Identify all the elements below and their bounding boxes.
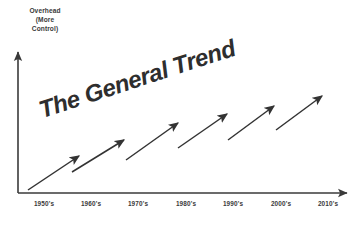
x-tick-label-1950s: 1950's bbox=[34, 200, 54, 207]
trend-arrow-4 bbox=[178, 114, 227, 148]
y-axis-label: Overhead (More Control) bbox=[14, 6, 76, 34]
trend-arrow-3 bbox=[126, 123, 178, 160]
y-axis-label-line-1: Overhead bbox=[14, 6, 76, 15]
y-axis-label-line-3: Control) bbox=[14, 24, 76, 33]
x-tick-label-1980s: 1980's bbox=[176, 200, 196, 207]
x-tick-label-1970s: 1970's bbox=[128, 200, 148, 207]
y-axis-label-line-2: (More bbox=[14, 15, 76, 24]
trend-arrow-1 bbox=[28, 156, 79, 190]
trend-arrow-2 bbox=[72, 140, 124, 172]
trend-chart: Overhead (More Control) The General Tren… bbox=[0, 0, 360, 226]
trend-arrow-6 bbox=[276, 96, 322, 130]
x-tick-label-2000s: 2000's bbox=[271, 200, 291, 207]
x-tick-label-1960s: 1960's bbox=[81, 200, 101, 207]
x-tick-label-2010s: 2010's bbox=[318, 200, 338, 207]
x-tick-label-1990s: 1990's bbox=[223, 200, 243, 207]
trend-arrow-5 bbox=[228, 106, 274, 140]
